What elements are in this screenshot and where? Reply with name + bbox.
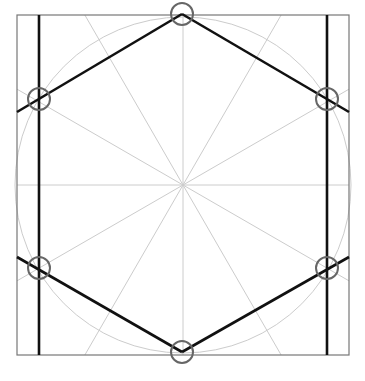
radial-line [183, 15, 281, 185]
hexagon-edge [182, 14, 349, 112]
radial-line [183, 185, 349, 281]
radial-guide-lines [17, 15, 349, 355]
radial-line [85, 15, 183, 185]
radial-line [85, 185, 183, 355]
radial-line [183, 185, 281, 355]
hexagon-edge [182, 257, 349, 352]
radial-line [183, 89, 349, 185]
radial-line [17, 89, 183, 185]
hexagon-construction-diagram [0, 0, 365, 381]
hexagon-edge [17, 14, 182, 112]
hexagon-edge [17, 257, 182, 352]
radial-line [17, 185, 183, 281]
